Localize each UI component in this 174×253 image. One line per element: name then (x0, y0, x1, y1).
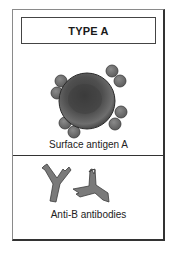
surface-antigen-icon (115, 106, 127, 118)
y-shaped-antibody-icon (73, 169, 109, 202)
red-blood-cell-icon (59, 73, 115, 129)
surface-antigen-icon (109, 118, 121, 130)
y-shaped-antibody-icon (42, 164, 71, 202)
section-divider (13, 155, 164, 156)
surface-antigen-icon (106, 65, 118, 77)
surface-antigen-icon (114, 75, 126, 87)
antibody-label: Anti-B antibodies (13, 209, 164, 220)
surface-antigen-label: Surface antigen A (13, 139, 164, 150)
antibodies (42, 164, 109, 202)
